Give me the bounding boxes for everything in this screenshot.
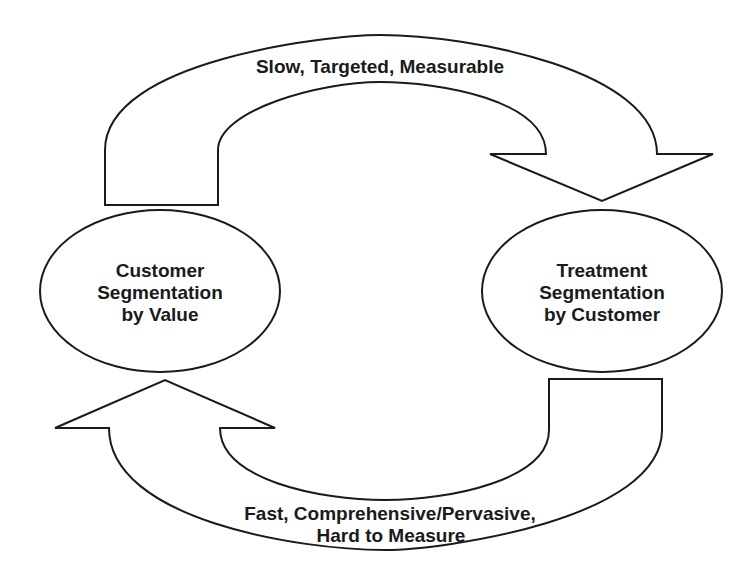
node-treatment-segmentation-line-3: by Customer: [544, 304, 661, 325]
node-customer-segmentation-line-2: Segmentation: [97, 282, 223, 303]
node-treatment-segmentation: Treatment Segmentation by Customer: [482, 210, 722, 372]
bottom-curved-arrow: Fast, Comprehensive/Pervasive, Hard to M…: [55, 379, 662, 550]
bottom-arrow-label-line-2: Hard to Measure: [317, 525, 466, 546]
node-treatment-segmentation-line-2: Segmentation: [539, 282, 665, 303]
cycle-diagram: Slow, Targeted, Measurable Fast, Compreh…: [0, 0, 754, 582]
top-curved-arrow: Slow, Targeted, Measurable: [105, 35, 713, 205]
top-arrow-label: Slow, Targeted, Measurable: [256, 56, 504, 77]
node-customer-segmentation: Customer Segmentation by Value: [40, 210, 280, 372]
node-treatment-segmentation-line-1: Treatment: [557, 260, 648, 281]
bottom-arrow-label-line-1: Fast, Comprehensive/Pervasive,: [244, 503, 535, 524]
node-customer-segmentation-line-3: by Value: [121, 304, 198, 325]
node-customer-segmentation-line-1: Customer: [116, 260, 205, 281]
